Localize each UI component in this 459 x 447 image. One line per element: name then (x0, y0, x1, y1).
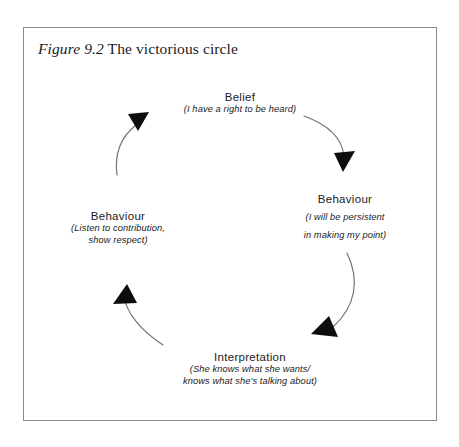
node-title: Interpretation (183, 350, 317, 364)
node-subtitle-line: (Listen to contribution, (71, 223, 165, 235)
node-subtitle-line: (She knows what she wants/ (183, 364, 317, 376)
node-title: Belief (184, 90, 296, 104)
node-subtitle-line: show respect) (71, 235, 165, 247)
node-subtitle-line: (I have a right to be heard) (184, 104, 296, 116)
node-subtitle-line: in making my point) (304, 230, 387, 242)
node-title: Behaviour (71, 209, 165, 223)
cycle-node-belief: Belief (I have a right to be heard) (184, 90, 296, 116)
cycle-node-behaviour-right: Behaviour (I will be persistent in makin… (288, 192, 402, 242)
node-subtitle-line: (I will be persistent (305, 212, 384, 224)
figure-caption-text: The victorious circle (108, 40, 238, 57)
node-subtitle-line: knows what she's talking about) (183, 376, 317, 388)
figure-caption-label: Figure 9.2 (38, 40, 104, 57)
cycle-node-interpretation: Interpretation (She knows what she wants… (183, 350, 317, 387)
figure-caption: Figure 9.2 The victorious circle (38, 40, 238, 58)
node-title: Behaviour (288, 192, 402, 206)
cycle-node-behaviour-left: Behaviour (Listen to contribution, show … (71, 209, 165, 246)
